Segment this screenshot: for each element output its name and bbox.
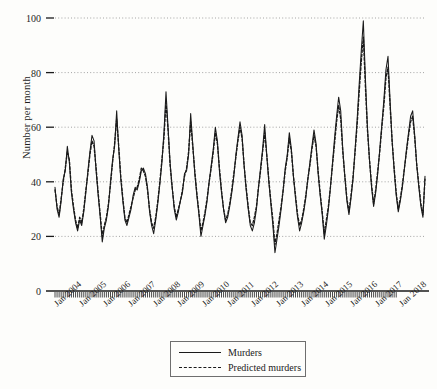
legend-swatch-dashed-icon — [179, 367, 221, 368]
legend-label-murders: Murders — [228, 347, 262, 358]
legend-swatch-solid-icon — [179, 352, 221, 353]
series-line-predicted-murders — [55, 37, 425, 244]
legend-item-predicted-murders: Predicted murders — [179, 360, 301, 374]
series-line-murders — [55, 21, 425, 253]
legend-label-predicted-murders: Predicted murders — [228, 362, 301, 373]
legend: Murders Predicted murders — [170, 341, 306, 377]
murders-time-series-chart: Number per month 020406080100 Jan 2004Ja… — [0, 0, 437, 389]
legend-item-murders: Murders — [179, 345, 262, 359]
plot-area — [0, 0, 437, 389]
